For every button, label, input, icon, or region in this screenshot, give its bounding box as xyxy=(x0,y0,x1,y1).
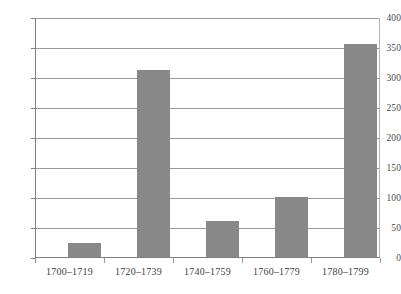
bar-chart: 400 350 300 250 200 150 100 50 0 xyxy=(0,0,401,294)
x-tick-mark xyxy=(380,258,381,263)
x-tick-mark xyxy=(311,258,312,263)
plot-area xyxy=(35,18,380,258)
x-tick-label-1700-1719: 1700–1719 xyxy=(35,266,104,278)
x-tick-label-1720-1739: 1720–1739 xyxy=(104,266,173,278)
x-tick-mark xyxy=(242,258,243,263)
x-tick-mark xyxy=(104,258,105,263)
bar-1700-1719 xyxy=(68,243,101,257)
x-tick-mark xyxy=(173,258,174,263)
bar-1780-1799 xyxy=(344,44,377,257)
bar-1740-1759 xyxy=(206,221,239,257)
x-tick-label-1740-1759: 1740–1759 xyxy=(173,266,242,278)
x-tick-label-1780-1799: 1780–1799 xyxy=(311,266,380,278)
bar-1760-1779 xyxy=(275,197,308,257)
bar-1720-1739 xyxy=(137,70,170,257)
x-tick-label-1760-1779: 1760–1779 xyxy=(242,266,311,278)
x-tick-mark xyxy=(35,258,36,263)
bars-layer xyxy=(36,18,379,257)
